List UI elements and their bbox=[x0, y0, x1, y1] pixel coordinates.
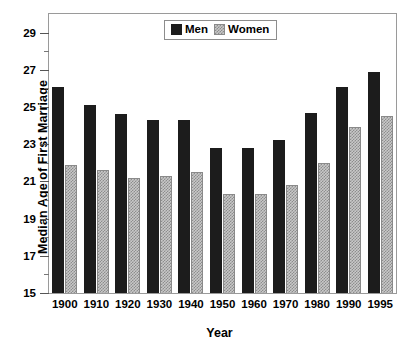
bar-men-1930 bbox=[147, 120, 159, 293]
y-axis-tick bbox=[40, 256, 49, 257]
x-axis-tick-label-1910: 1910 bbox=[84, 298, 110, 310]
bar-men-1990 bbox=[336, 87, 348, 293]
legend-label-women: Women bbox=[228, 24, 269, 36]
bar-women-1940 bbox=[191, 172, 203, 293]
y-axis-tick bbox=[40, 70, 49, 71]
bar-women-1960 bbox=[255, 194, 267, 293]
bar-women-1920 bbox=[128, 178, 140, 293]
x-axis-tick-label-1980: 1980 bbox=[304, 298, 330, 310]
legend-swatch-women-icon bbox=[214, 24, 225, 35]
bar-men-1995 bbox=[368, 72, 380, 293]
bar-men-1950 bbox=[210, 148, 222, 293]
x-axis-title: Year bbox=[42, 326, 397, 340]
chart-legend: Men Women bbox=[164, 20, 277, 40]
bar-women-1970 bbox=[286, 185, 298, 293]
x-axis-tick-label-1930: 1930 bbox=[147, 298, 173, 310]
y-axis-tick bbox=[40, 33, 49, 34]
x-axis-tick-label-1960: 1960 bbox=[241, 298, 267, 310]
bar-men-1940 bbox=[178, 120, 190, 293]
y-axis-tick bbox=[40, 181, 49, 182]
y-axis-tick-label: 23 bbox=[23, 138, 36, 150]
x-axis-tick-label-1970: 1970 bbox=[273, 298, 299, 310]
y-axis-tick bbox=[40, 293, 49, 294]
bar-women-1910 bbox=[97, 170, 109, 293]
legend-label-men: Men bbox=[185, 24, 208, 36]
bars-layer bbox=[49, 14, 396, 293]
y-axis-tick bbox=[40, 144, 49, 145]
bar-men-1900 bbox=[52, 87, 64, 293]
legend-entry-women: Women bbox=[214, 24, 269, 36]
chart-figure: Median Age of First Marriage 15171921232… bbox=[0, 0, 415, 349]
x-axis-tick-label-1900: 1900 bbox=[52, 298, 78, 310]
y-axis-tick-label: 27 bbox=[23, 64, 36, 76]
bar-men-1970 bbox=[273, 140, 285, 293]
bar-men-1960 bbox=[242, 148, 254, 293]
y-axis-tick-label: 19 bbox=[23, 213, 36, 225]
x-axis-tick-label-1995: 1995 bbox=[367, 298, 393, 310]
y-axis-tick-label: 17 bbox=[23, 250, 36, 262]
x-axis-tick-label-1940: 1940 bbox=[178, 298, 204, 310]
bar-women-1930 bbox=[160, 176, 172, 293]
bar-men-1980 bbox=[305, 113, 317, 293]
legend-entry-men: Men bbox=[171, 24, 208, 36]
y-axis-tick bbox=[40, 107, 49, 108]
y-axis-tick-label: 21 bbox=[23, 175, 36, 187]
x-axis-tick-label-1950: 1950 bbox=[210, 298, 236, 310]
x-axis-tick-label-1990: 1990 bbox=[336, 298, 362, 310]
x-axis-tick-label-1920: 1920 bbox=[115, 298, 141, 310]
y-axis-tick-label: 29 bbox=[23, 27, 36, 39]
y-axis-tick-label: 25 bbox=[23, 101, 36, 113]
y-axis-tick bbox=[40, 219, 49, 220]
bar-women-1990 bbox=[349, 127, 361, 293]
bar-women-1900 bbox=[65, 165, 77, 293]
y-axis-tick-label: 15 bbox=[23, 287, 36, 299]
legend-swatch-men-icon bbox=[171, 24, 182, 35]
bar-women-1980 bbox=[318, 163, 330, 293]
bar-men-1910 bbox=[84, 105, 96, 293]
bar-women-1950 bbox=[223, 194, 235, 293]
bar-women-1995 bbox=[381, 116, 393, 293]
bar-men-1920 bbox=[115, 114, 127, 293]
